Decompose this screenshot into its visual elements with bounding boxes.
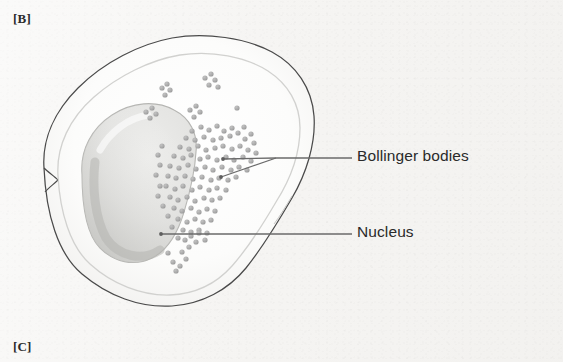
callout-label-nucleus: Nucleus: [357, 223, 414, 241]
callout-label-bollinger-bodies: Bollinger bodies: [357, 147, 469, 165]
panel-tag-b: [B]: [13, 11, 31, 27]
cell-diagram: [0, 0, 563, 362]
figure-page: [B] [C]: [0, 0, 563, 362]
panel-tag-c: [C]: [13, 339, 32, 355]
